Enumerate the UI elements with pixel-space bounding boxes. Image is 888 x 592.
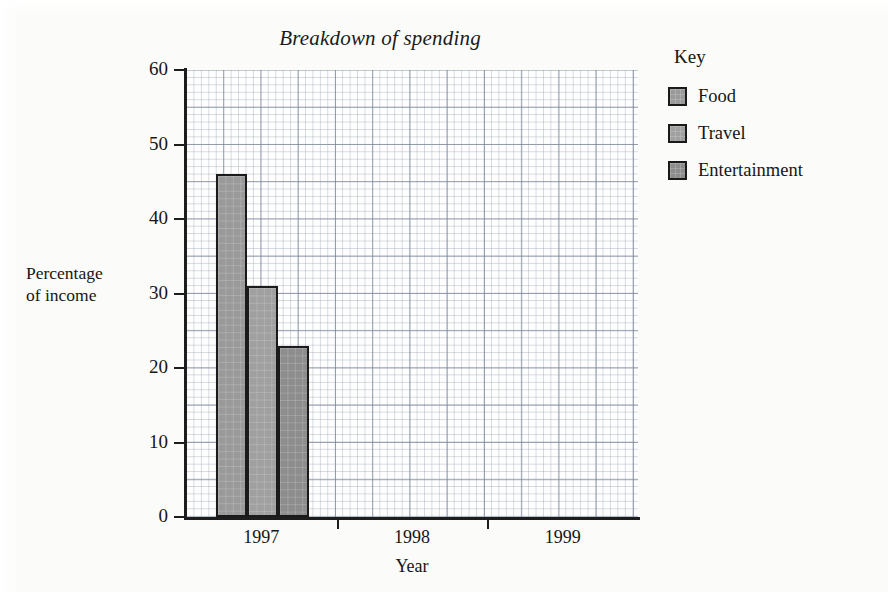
legend-item: Entertainment [668,152,884,189]
y-tick [174,367,185,369]
chart-title: Breakdown of spending [0,26,760,51]
bar [278,346,309,517]
legend-swatch-texture [670,126,685,141]
y-tick-label: 50 [112,133,168,155]
y-axis-title-line1: Percentage [26,262,174,284]
y-tick [174,69,185,71]
y-axis-title: Percentage of income [26,262,174,306]
y-tick-label: 60 [112,58,168,80]
x-axis-line [184,517,640,520]
y-tick-label: 0 [112,505,168,527]
x-tick [487,519,489,529]
x-tick [337,519,339,529]
legend-swatch-texture [670,163,685,178]
plot-area [186,70,638,517]
chart-figure: Breakdown of spending 0102030405060 1997… [0,0,888,592]
y-tick [174,218,185,220]
legend-label: Food [698,86,736,107]
legend-rows: FoodTravelEntertainment [668,78,884,189]
bar [247,286,278,517]
bar-texture [280,348,307,515]
legend-title: Key [674,46,884,68]
y-tick-label: 40 [112,207,168,229]
legend-swatch-texture [670,89,685,104]
x-tick-label: 1999 [508,527,618,548]
y-tick [174,144,185,146]
y-tick-label: 20 [112,356,168,378]
y-tick [174,442,185,444]
legend-swatch [668,87,687,106]
y-tick [174,516,185,518]
legend-swatch [668,124,687,143]
legend: Key FoodTravelEntertainment [668,46,884,189]
legend-label: Travel [698,123,746,144]
x-axis-title: Year [186,556,638,577]
legend-swatch [668,161,687,180]
y-axis-title-line2: of income [26,284,174,306]
y-tick [174,293,185,295]
y-tick-label: 10 [112,431,168,453]
bar-texture [218,176,245,515]
legend-label: Entertainment [698,160,803,181]
bar [216,174,247,517]
legend-item: Food [668,78,884,115]
bar-texture [249,288,276,515]
x-tick-label: 1998 [357,527,467,548]
legend-item: Travel [668,115,884,152]
x-tick-label: 1997 [206,527,316,548]
